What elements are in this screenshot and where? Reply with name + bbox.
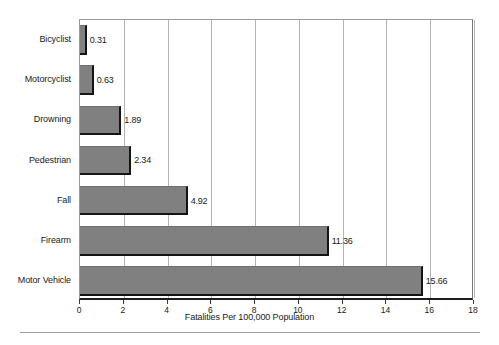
- bar-row: 4.92: [80, 186, 472, 216]
- bar-value-label: 2.34: [134, 155, 151, 165]
- y-axis-tick-label: Firearm: [41, 235, 71, 245]
- bar[interactable]: [80, 146, 131, 176]
- bar-value-label: 15.66: [426, 276, 448, 286]
- y-axis-tick-label: Bicyclist: [39, 34, 71, 44]
- bar[interactable]: [80, 65, 94, 95]
- gridline: [474, 20, 475, 298]
- bar-value-label: 4.92: [191, 196, 208, 206]
- x-axis-tick-mark: [254, 300, 255, 304]
- bottom-divider-rule: [20, 332, 480, 333]
- x-axis-tick-mark: [385, 300, 386, 304]
- x-axis-tick-mark: [123, 300, 124, 304]
- y-axis-category-labels: BicyclistMotorcyclistDrowningPedestrianF…: [0, 19, 75, 300]
- bar[interactable]: [80, 106, 121, 136]
- bar-row: 11.36: [80, 226, 472, 256]
- y-axis-tick-label: Motorcyclist: [25, 74, 71, 84]
- x-axis-title: Fatalities Per 100,000 Population: [0, 312, 499, 322]
- bar[interactable]: [80, 266, 423, 296]
- bar-row: 15.66: [80, 266, 472, 296]
- x-axis-tick-mark: [79, 300, 80, 304]
- bar-row: 2.34: [80, 146, 472, 176]
- bar[interactable]: [80, 25, 87, 55]
- x-axis-tick-mark: [342, 300, 343, 304]
- x-axis-tick-mark: [210, 300, 211, 304]
- y-axis-tick-label: Fall: [57, 195, 71, 205]
- x-axis-tick-mark: [429, 300, 430, 304]
- bar[interactable]: [80, 186, 188, 216]
- y-axis-tick-label: Pedestrian: [29, 155, 71, 165]
- bar-value-label: 1.89: [124, 115, 141, 125]
- y-axis-tick-label: Drowning: [34, 114, 71, 124]
- bar-value-label: 11.36: [332, 236, 353, 246]
- y-axis-tick-label: Motor Vehicle: [18, 275, 71, 285]
- bars-layer: 0.310.631.892.344.9211.3615.66: [80, 20, 472, 298]
- x-axis-tick-mark: [473, 300, 474, 304]
- bar-row: 1.89: [80, 106, 472, 136]
- x-axis-tick-mark: [298, 300, 299, 304]
- bar-value-label: 0.63: [97, 75, 114, 85]
- bar-row: 0.63: [80, 65, 472, 95]
- bar[interactable]: [80, 226, 329, 256]
- bar-row: 0.31: [80, 25, 472, 55]
- bar-chart-figure: BicyclistMotorcyclistDrowningPedestrianF…: [0, 0, 499, 345]
- bar-value-label: 0.31: [90, 35, 107, 45]
- x-axis-tick-mark: [167, 300, 168, 304]
- plot-area: 0.310.631.892.344.9211.3615.66: [79, 19, 473, 300]
